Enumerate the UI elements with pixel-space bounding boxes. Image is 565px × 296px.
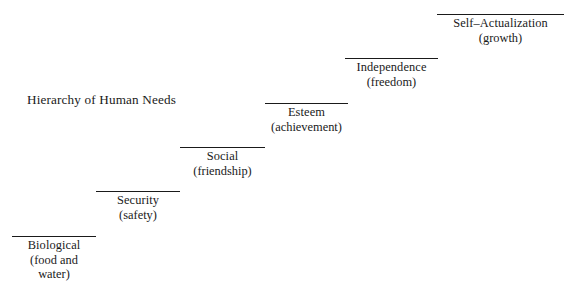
step-label-social: Social (friendship) [180, 148, 265, 178]
step-qualifier-social: (friendship) [180, 164, 265, 179]
step-social: Social (friendship) [180, 147, 265, 178]
step-qualifier-esteem: (achievement) [265, 120, 348, 135]
step-qualifier-security: (safety) [96, 208, 180, 223]
step-name-self-actualization: Self–Actualization [437, 16, 564, 31]
step-independence: Independence (freedom) [345, 58, 438, 89]
step-name-biological: Biological [12, 238, 96, 253]
step-label-self-actualization: Self–Actualization (growth) [437, 15, 564, 45]
step-biological: Biological (food and water) [12, 236, 96, 282]
page-title: Hierarchy of Human Needs [27, 92, 176, 108]
step-label-independence: Independence (freedom) [345, 59, 438, 89]
step-label-security: Security (safety) [96, 192, 180, 222]
step-name-esteem: Esteem [265, 105, 348, 120]
step-qualifier-self-actualization: (growth) [437, 31, 564, 46]
step-label-esteem: Esteem (achievement) [265, 104, 348, 134]
step-qualifier2-biological: water) [12, 267, 96, 282]
step-qualifier-independence: (freedom) [345, 75, 438, 90]
step-name-security: Security [96, 193, 180, 208]
step-name-social: Social [180, 149, 265, 164]
hierarchy-of-human-needs-diagram: Hierarchy of Human Needs Biological (foo… [0, 0, 565, 296]
step-esteem: Esteem (achievement) [265, 103, 348, 134]
step-name-independence: Independence [345, 60, 438, 75]
step-qualifier-biological: (food and [12, 253, 96, 268]
step-self-actualization: Self–Actualization (growth) [437, 14, 564, 45]
step-security: Security (safety) [96, 191, 180, 222]
step-label-biological: Biological (food and water) [12, 237, 96, 282]
